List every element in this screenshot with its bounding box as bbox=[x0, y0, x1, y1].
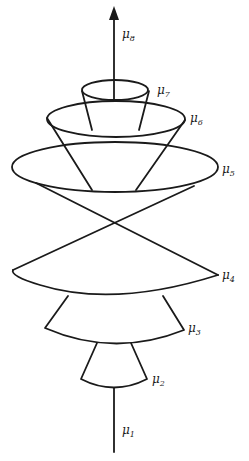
ellipse-mu6 bbox=[47, 101, 185, 137]
cone-mu4-left-edge bbox=[13, 186, 194, 270]
cone-mu4-base bbox=[13, 270, 218, 294]
label-mu6: μ6 bbox=[190, 112, 203, 127]
label-mu4: μ4 bbox=[222, 269, 235, 284]
label-mu1: μ1 bbox=[122, 424, 135, 439]
cone-diagram bbox=[0, 0, 249, 461]
cone-mu2 bbox=[81, 343, 147, 388]
label-mu2: μ2 bbox=[152, 373, 165, 388]
arrow-up-icon bbox=[109, 6, 119, 20]
ellipse-mu5 bbox=[12, 142, 218, 192]
ellipse-mu7 bbox=[82, 80, 148, 100]
cone-mu3 bbox=[45, 296, 184, 344]
label-mu8: μ8 bbox=[122, 28, 135, 43]
cone-mu4-right-edge bbox=[36, 183, 218, 275]
label-mu7: μ7 bbox=[157, 84, 170, 99]
label-mu5: μ5 bbox=[222, 163, 235, 178]
cone-mu6-edges bbox=[47, 118, 185, 190]
label-mu3: μ3 bbox=[188, 322, 201, 337]
